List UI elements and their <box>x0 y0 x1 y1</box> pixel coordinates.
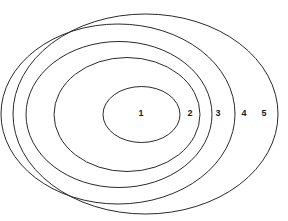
zone-label-4: 4 <box>241 108 246 118</box>
diagram-canvas: 1 2 3 4 5 <box>0 0 288 221</box>
zone-label-1: 1 <box>138 108 143 118</box>
zone-label-5: 5 <box>261 108 266 118</box>
zone-label-3: 3 <box>215 108 220 118</box>
zone-label-2: 2 <box>187 108 192 118</box>
nested-ellipse-diagram: 1 2 3 4 5 <box>0 0 288 221</box>
